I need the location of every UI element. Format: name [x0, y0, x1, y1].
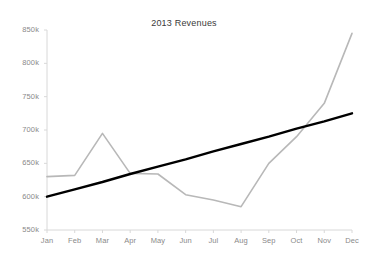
trendline-series-line — [47, 113, 352, 196]
plot-area — [0, 0, 368, 264]
revenue-line-chart: 2013 Revenues 550k600k650k700k750k800k85… — [0, 0, 368, 264]
revenue-series-line — [47, 33, 352, 206]
